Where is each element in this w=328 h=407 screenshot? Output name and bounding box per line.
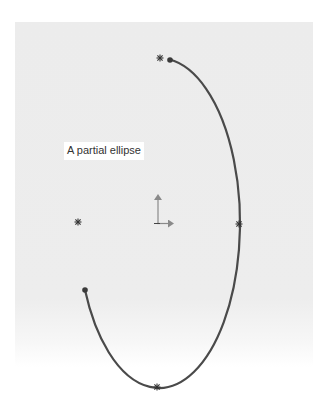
diagram-label: A partial ellipse <box>64 142 144 160</box>
bottom-quadrant-point[interactable] <box>154 384 161 391</box>
top-quadrant-point[interactable] <box>157 55 164 62</box>
left-quadrant-point[interactable] <box>75 219 82 226</box>
arc-start-point[interactable] <box>167 57 173 63</box>
right-quadrant-point[interactable] <box>236 221 243 228</box>
sketch-scene <box>0 0 328 407</box>
arc-end-point[interactable] <box>82 287 88 293</box>
origin-axes <box>154 197 171 224</box>
